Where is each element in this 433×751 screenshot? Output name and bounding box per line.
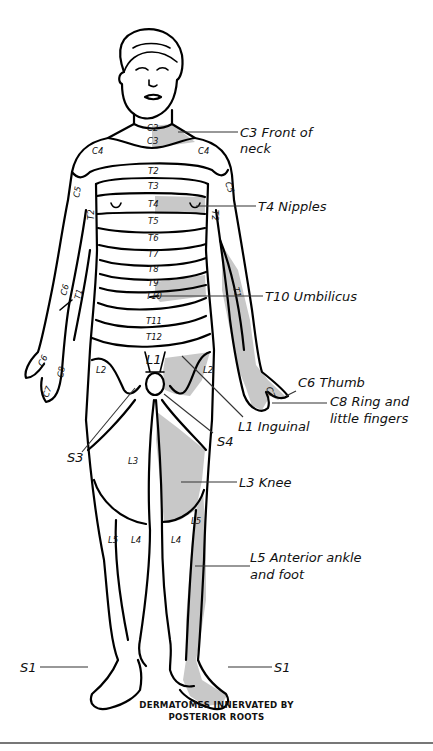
label-c8-hand-left: C8 [55,365,67,378]
label-c6-hand: C6 [36,353,50,368]
t4-t5-boundary [97,213,205,215]
callouts: C3 Front of neck T4 Nipples T10 Umbilicu… [20,125,410,675]
label-t2-top: T2 [148,166,159,176]
label-t9: T9 [148,278,159,288]
label-c2: C2 [147,123,158,133]
label-c6-left: C6 [58,282,71,296]
callout-l5-line1: L5 Anterior ankle [250,550,362,565]
label-t6: T6 [148,233,159,243]
left-eye [136,68,148,70]
mouth [145,95,161,100]
leader-c6 [286,391,296,396]
label-t7: T7 [148,249,159,259]
callout-s3: S3 [67,450,84,465]
callout-t10: T10 Umbilicus [265,289,357,304]
label-l2-left: L2 [96,365,106,375]
label-l3: L3 [128,456,138,466]
leader-s3 [82,388,135,452]
t3-t4-boundary [97,193,205,197]
label-c3: C3 [147,136,158,146]
label-t3: T3 [148,181,159,191]
label-l5-left: L5 [108,535,118,545]
callout-s4: S4 [217,434,234,449]
s3-thigh-boundary [88,400,135,450]
t5-t6-boundary [98,228,205,233]
left-leg-inner [139,400,154,666]
label-l5-right: L5 [191,516,201,526]
bottom-rule [0,742,433,744]
label-c5-left: C5 [71,185,83,198]
callout-c3-line2: neck [240,141,271,156]
label-c4-left: C4 [92,146,103,156]
callout-c6: C6 Thumb [298,375,365,390]
l3-thigh-left-boundary [94,480,146,524]
label-l1: L1 [146,352,162,367]
label-c7-hand-left: C7 [40,384,53,399]
label-t8: T8 [148,264,159,274]
figure-caption-line1: DERMATOMES INNERVATED BY [0,699,433,711]
head-outline [119,29,182,118]
hair-line [124,52,177,72]
callout-c8-line2: little fingers [330,411,408,426]
callout-l3: L3 Knee [239,475,291,490]
hair-part [133,44,170,49]
left-nipple [111,203,121,208]
label-t11: T11 [146,316,162,326]
label-t5: T5 [148,216,159,226]
label-t2-left: T2 [86,209,96,220]
label-t12: T12 [146,332,162,342]
callout-l1: L1 Inguinal [238,419,310,434]
callout-l5-line2: and foot [250,567,305,582]
callout-s1-left: S1 [20,660,37,675]
label-l2-right: L2 [203,365,213,375]
left-l2-boundary [92,358,140,393]
callout-c8-line1: C8 Ring and [330,394,410,409]
label-l4-right: L4 [171,535,181,545]
dermatome-figure: C2 C3 C4 C4 C5 C5 T2 T2 T2 T3 T4 T5 T6 T… [0,0,433,751]
label-t2-right: T2 [210,210,220,221]
label-c4-right: C4 [198,146,209,156]
genital-outline [146,373,164,395]
shade-t4-chest [155,196,205,214]
right-eye [157,68,168,70]
callout-c3-line1: C3 Front of [240,125,315,140]
callout-s1-right: S1 [274,660,291,675]
figure-caption-line2: POSTERIOR ROOTS [0,711,433,723]
nose [149,80,157,87]
label-t4: T4 [148,199,159,209]
label-l4-left: L4 [131,535,141,545]
left-arm-band [60,300,72,310]
callout-t4: T4 Nipples [258,199,327,214]
